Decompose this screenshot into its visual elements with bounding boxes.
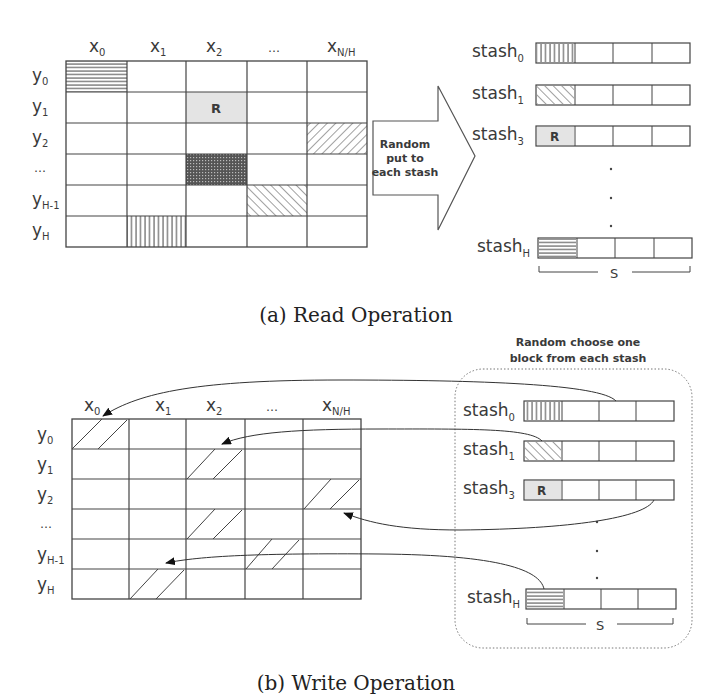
read-row-label-1: y1	[32, 96, 48, 118]
write-size-bracket: S	[527, 618, 673, 633]
read-stashes: stash0 stash1 stash3 R	[472, 41, 692, 281]
svg-text:R: R	[550, 130, 559, 144]
svg-text:…: …	[266, 400, 278, 414]
read-stash-0: stash0	[472, 41, 690, 64]
svg-text:stash3: stash3	[463, 478, 515, 501]
write-stash-1: stash1	[463, 439, 674, 462]
svg-text:y1: y1	[37, 454, 53, 476]
read-row-label-2: y2	[32, 127, 48, 149]
svg-text:stash0: stash0	[463, 400, 515, 423]
svg-text:R: R	[537, 484, 546, 498]
diagram-svg: x0 x1 x2 … xN/H y0 y1 y2 … yH-1 yH R	[0, 0, 713, 700]
read-row-label-5: yH	[32, 220, 50, 242]
write-column-headers: x0 x1 x2 … xN/H	[84, 395, 350, 417]
read-cell-marker: R	[211, 101, 221, 116]
read-col-header-1: x1	[150, 36, 166, 58]
read-size-bracket: S	[539, 266, 690, 281]
write-row-labels: y0 y1 y2 … yH-1 yH	[37, 424, 65, 596]
svg-text:yH: yH	[37, 574, 55, 596]
write-box-title-1: Random choose one	[516, 336, 641, 349]
write-stashes: stash0 stash1 stash3 R	[463, 400, 676, 633]
read-row-label-4: yH-1	[32, 189, 60, 211]
read-row-label-3: …	[34, 161, 46, 175]
svg-text:S: S	[596, 618, 604, 633]
svg-text:x1: x1	[155, 395, 171, 417]
read-column-headers: x0 x1 x2 … xN/H	[89, 36, 355, 58]
svg-text:stash0: stash0	[472, 41, 524, 64]
write-stash-h: stashH	[467, 587, 676, 610]
svg-text:stash1: stash1	[472, 83, 524, 106]
svg-text:y0: y0	[37, 424, 53, 446]
read-stash-ellipsis	[610, 168, 612, 227]
write-stash-3: stash3 R	[463, 478, 674, 501]
read-col-header-4: xN/H	[327, 36, 355, 58]
svg-text:xN/H: xN/H	[322, 395, 350, 417]
read-stash-1: stash1	[472, 83, 690, 106]
read-col-header-2: x2	[206, 36, 222, 58]
read-caption: (a) Read Operation	[259, 303, 453, 327]
svg-text:x2: x2	[206, 395, 222, 417]
read-cell-x2-ydots	[186, 154, 247, 185]
read-cell-x3-yh1	[247, 185, 307, 216]
svg-text:S: S	[610, 266, 618, 281]
write-stash-ellipsis	[596, 521, 598, 579]
write-box-title-2: block from each stash	[510, 352, 647, 365]
read-cell-xn-y2	[307, 123, 367, 154]
svg-text:stashH: stashH	[477, 236, 530, 259]
svg-text:stash1: stash1	[463, 439, 515, 462]
arrow-label-line-3: each stash	[372, 166, 439, 179]
arrow-stash3-to-xny2	[344, 500, 654, 530]
svg-text:stashH: stashH	[467, 587, 520, 610]
write-stash-0: stash0	[463, 400, 674, 423]
read-row-label-0: y0	[32, 65, 48, 87]
write-operation-panel: Random choose one block from each stash …	[37, 336, 692, 695]
arrow-label-line-2: put to	[386, 152, 424, 165]
read-stash-3: stash3 R	[472, 124, 690, 147]
read-row-labels: y0 y1 y2 … yH-1 yH	[32, 65, 60, 242]
read-stash-h: stashH	[477, 236, 692, 259]
svg-text:y2: y2	[37, 484, 53, 506]
random-put-arrow: Random put to each stash	[372, 86, 475, 230]
svg-text:…: …	[40, 517, 52, 531]
svg-text:yH-1: yH-1	[37, 544, 65, 566]
arrow-label-line-1: Random	[380, 138, 431, 151]
read-operation-panel: x0 x1 x2 … xN/H y0 y1 y2 … yH-1 yH R	[32, 36, 692, 327]
read-col-header-0: x0	[89, 36, 105, 58]
read-cell-x1-yh	[127, 216, 186, 247]
svg-text:x0: x0	[84, 395, 100, 417]
write-grid	[72, 419, 361, 599]
read-grid: R	[66, 61, 367, 247]
write-caption: (b) Write Operation	[257, 671, 456, 695]
svg-text:stash3: stash3	[472, 124, 524, 147]
oram-diagram: x0 x1 x2 … xN/H y0 y1 y2 … yH-1 yH R	[0, 0, 713, 700]
read-col-header-3: …	[268, 41, 280, 55]
read-cell-x0-y0	[66, 61, 127, 92]
